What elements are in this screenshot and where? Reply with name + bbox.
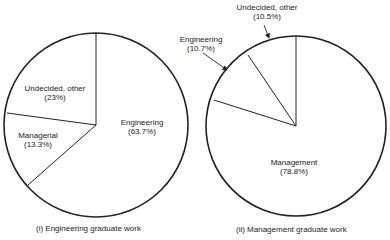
label-right-management: Management (78.8%) [264,158,324,176]
label-right-undecided: Undecided, other (10.5%) [230,3,304,21]
caption-left: (i) Engineering graduate work [36,224,141,233]
label-name: Managerial [14,131,62,140]
label-right-engineering: Engineering (10.7%) [176,35,226,53]
label-pct: (63.7%) [112,127,172,136]
label-name: Management [264,158,324,167]
label-pct: (78.8%) [264,167,324,176]
label-left-engineering: Engineering (63.7%) [112,118,172,136]
label-name: Undecided, other [18,84,92,93]
arrow-undecided [264,25,269,38]
label-pct: (10.7%) [176,44,226,53]
label-pct: (23%) [18,93,92,102]
pie-management-graduates [206,36,386,216]
label-left-managerial: Managerial (13.3%) [14,131,62,149]
label-pct: (13.3%) [14,140,62,149]
label-name: Undecided, other [230,3,304,12]
label-pct: (10.5%) [230,12,304,21]
label-left-undecided: Undecided, other (23%) [18,84,92,102]
label-name: Engineering [176,35,226,44]
arrow-engineering [203,53,227,70]
label-name: Engineering [112,118,172,127]
caption-right: (ii) Management graduate work [236,225,347,234]
